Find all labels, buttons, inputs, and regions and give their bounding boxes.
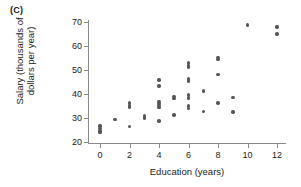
data-point — [246, 23, 249, 26]
y-axis-line — [88, 20, 89, 144]
x-tick-label: 4 — [149, 151, 169, 160]
data-point — [202, 110, 205, 113]
x-tick-label: 12 — [267, 151, 287, 160]
y-tick — [84, 46, 88, 47]
x-tick-label: 10 — [238, 151, 258, 160]
y-tick — [84, 142, 88, 143]
y-axis-title: Salary (thousands of dollars per year) — [14, 1, 36, 121]
x-tick — [248, 144, 249, 148]
data-point — [216, 73, 219, 76]
data-point — [128, 105, 131, 108]
y-tick — [84, 118, 88, 119]
x-tick — [130, 144, 131, 148]
data-point — [231, 110, 234, 113]
y-tick — [84, 94, 88, 95]
x-axis-line — [88, 143, 286, 144]
data-point — [187, 107, 190, 110]
data-point — [98, 131, 101, 134]
x-tick — [159, 144, 160, 148]
y-tick-label: 70 — [60, 18, 82, 27]
y-tick-label: 60 — [60, 42, 82, 51]
data-point — [187, 65, 190, 68]
data-point — [172, 97, 175, 100]
x-tick — [100, 144, 101, 148]
y-tick-label: 40 — [60, 90, 82, 99]
y-tick-label: 20 — [60, 138, 82, 147]
data-point — [216, 101, 219, 104]
y-tick — [84, 22, 88, 23]
x-axis-title: Education (years) — [88, 167, 286, 177]
y-tick-label: 30 — [60, 114, 82, 123]
data-point — [216, 58, 219, 61]
data-point — [231, 96, 234, 99]
x-tick — [218, 144, 219, 148]
data-point — [157, 119, 160, 122]
x-tick-label: 8 — [208, 151, 228, 160]
data-point — [187, 79, 190, 82]
data-point — [113, 118, 116, 121]
data-point — [157, 78, 160, 81]
scatter-plot-figure: (C) 203040506070 024681012 Education (ye… — [0, 0, 301, 187]
data-point — [172, 113, 175, 116]
data-point — [275, 32, 278, 35]
x-tick-label: 6 — [179, 151, 199, 160]
data-point — [157, 106, 160, 109]
data-point — [202, 89, 205, 92]
y-tick — [84, 70, 88, 71]
x-tick-label: 2 — [120, 151, 140, 160]
x-tick-label: 0 — [90, 151, 110, 160]
plot-area: 203040506070 024681012 — [0, 0, 301, 187]
y-axis-title-line-2: dollars per year) — [25, 1, 36, 121]
data-point — [143, 116, 146, 119]
y-axis-title-line-1: Salary (thousands of — [14, 1, 25, 121]
y-tick-label: 50 — [60, 66, 82, 75]
data-point — [275, 25, 278, 28]
data-point — [187, 96, 190, 99]
data-point — [128, 125, 131, 128]
x-tick — [189, 144, 190, 148]
x-tick — [277, 144, 278, 148]
data-point — [157, 84, 160, 87]
